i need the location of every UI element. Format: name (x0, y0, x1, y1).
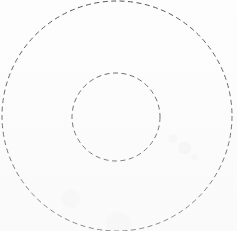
concentric-circles-figure (0, 0, 237, 231)
diagram-canvas (0, 0, 237, 231)
